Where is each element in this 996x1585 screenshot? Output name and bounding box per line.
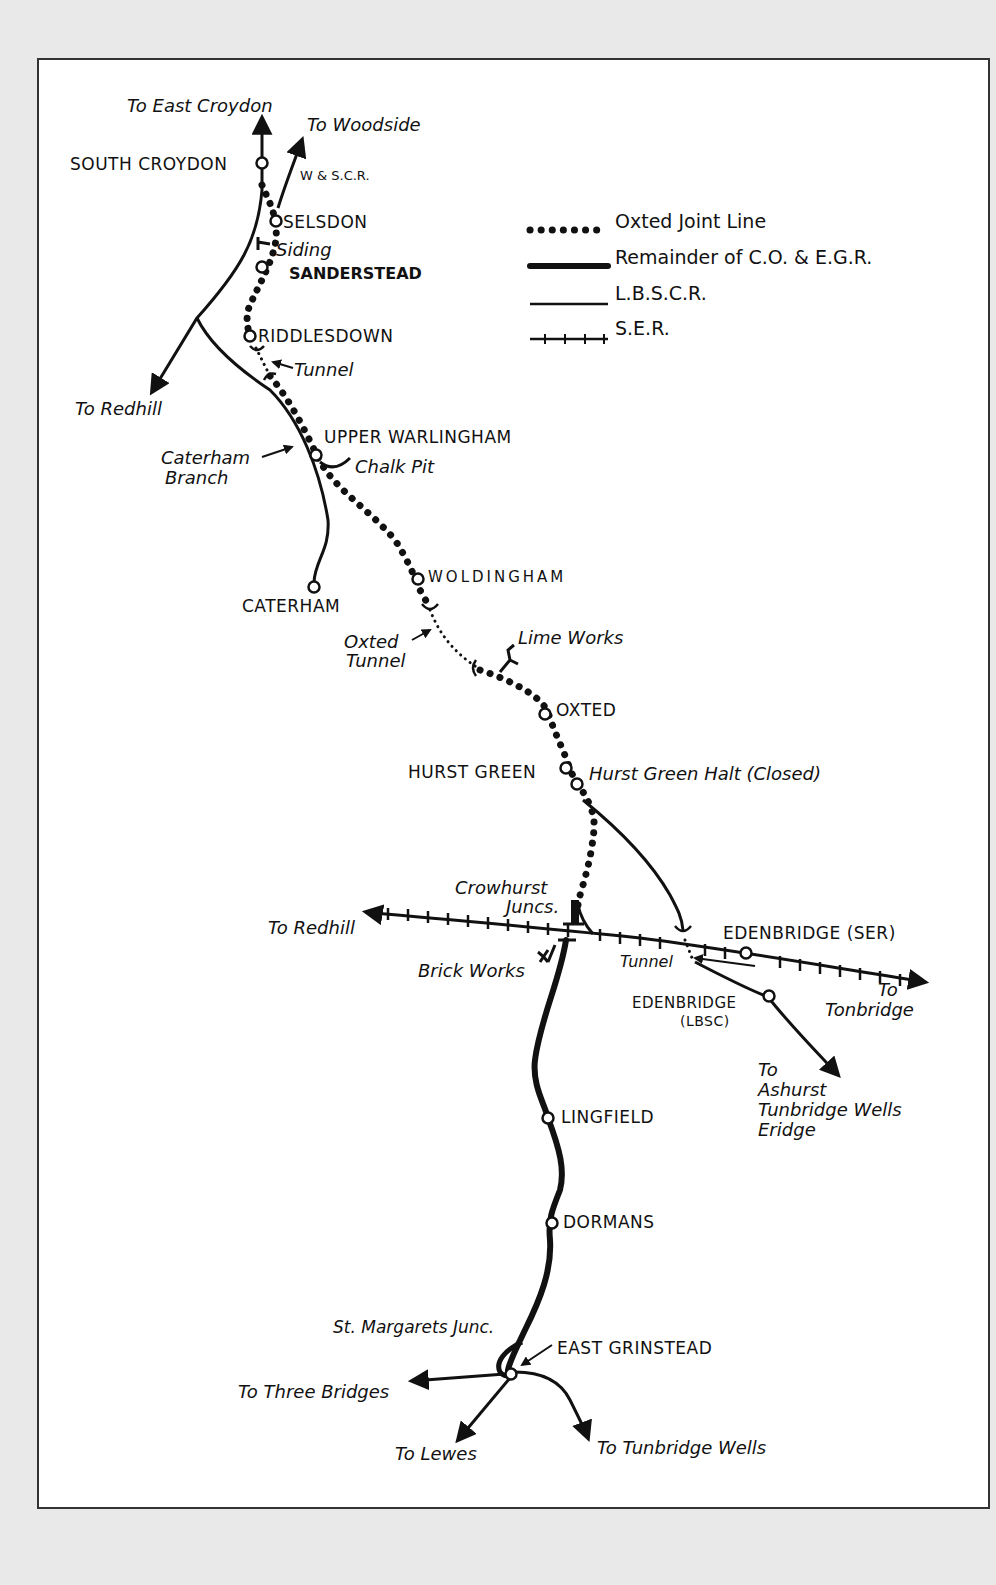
station-marker-east-grinstead[interactable] xyxy=(506,1369,517,1380)
crowhurst-junc-mark xyxy=(571,900,579,924)
label-selsdon: SELSDON xyxy=(283,212,367,232)
label-st-margarets: St. Margarets Junc. xyxy=(333,1317,494,1337)
station-marker-dormans[interactable] xyxy=(547,1218,558,1229)
label-to-woodside: To Woodside xyxy=(307,114,421,135)
label-oxted: OXTED xyxy=(556,700,616,720)
station-marker-edenbridge-lbsc[interactable] xyxy=(764,991,775,1002)
label-sanderstead: SANDERSTEAD xyxy=(289,264,422,283)
station-marker-upper-warlingham[interactable] xyxy=(311,450,322,461)
label-to-tunbridge-wells: To Tunbridge Wells xyxy=(597,1437,766,1458)
label-to-ashurst-1: To xyxy=(758,1059,778,1080)
legend-label-lbscr: L.B.S.C.R. xyxy=(615,282,707,304)
label-hurst-green-halt: Hurst Green Halt (Closed) xyxy=(589,763,821,784)
station-marker-south-croydon[interactable] xyxy=(257,158,268,169)
label-to-tonbridge-1: To xyxy=(878,979,898,1000)
label-to-redhill-north: To Redhill xyxy=(75,398,162,419)
map-frame xyxy=(38,59,989,1508)
label-caterham: CATERHAM xyxy=(242,596,340,616)
label-caterham-branch-1: Caterham xyxy=(161,447,250,468)
label-riddlesdown: RIDDLESDOWN xyxy=(258,326,394,346)
label-wscr: W & S.C.R. xyxy=(300,168,370,183)
label-east-grinstead: EAST GRINSTEAD xyxy=(557,1338,712,1358)
legend-label-ser: S.E.R. xyxy=(615,317,670,339)
station-marker-lingfield[interactable] xyxy=(543,1113,554,1124)
label-crowhurst-1: Crowhurst xyxy=(455,877,548,898)
label-hurst-green: HURST GREEN xyxy=(408,762,536,782)
label-chalk-pit: Chalk Pit xyxy=(355,456,435,477)
label-siding: Siding xyxy=(276,239,332,260)
label-to-lewes: To Lewes xyxy=(395,1443,477,1464)
label-edenbridge-lbsc-sub: (LBSC) xyxy=(680,1013,730,1029)
label-crowhurst-2: Juncs. xyxy=(503,896,559,917)
label-to-east-croydon: To East Croydon xyxy=(127,95,273,116)
legend-label-coegr: Remainder of C.O. & E.G.R. xyxy=(615,246,872,268)
station-marker-sanderstead[interactable] xyxy=(257,262,268,273)
legend-label-oxted-joint: Oxted Joint Line xyxy=(615,210,766,232)
station-marker-oxted[interactable] xyxy=(540,709,551,720)
label-upper-warlingham: UPPER WARLINGHAM xyxy=(324,427,512,447)
station-marker-selsdon[interactable] xyxy=(271,216,282,227)
label-to-three-bridges: To Three Bridges xyxy=(238,1381,389,1402)
station-marker-hurst-green[interactable] xyxy=(561,763,572,774)
label-lime-works: Lime Works xyxy=(518,627,623,648)
station-marker-caterham[interactable] xyxy=(309,582,320,593)
station-marker-riddlesdown[interactable] xyxy=(245,331,256,342)
station-marker-edenbridge-ser[interactable] xyxy=(741,948,752,959)
label-woldingham: WOLDINGHAM xyxy=(428,568,566,586)
label-oxted-tunnel-2: Tunnel xyxy=(346,650,405,671)
label-to-ashurst-3: Tunbridge Wells xyxy=(758,1099,902,1120)
label-to-redhill-west: To Redhill xyxy=(268,917,355,938)
label-lingfield: LINGFIELD xyxy=(561,1107,654,1127)
label-edenbridge-ser: EDENBRIDGE (SER) xyxy=(723,923,896,943)
label-to-ashurst-4: Eridge xyxy=(758,1119,816,1140)
railway-map: Oxted Joint Line Remainder of C.O. & E.G… xyxy=(0,0,996,1585)
label-dormans: DORMANS xyxy=(563,1212,655,1232)
station-marker-hurst-green-halt[interactable] xyxy=(572,779,583,790)
label-caterham-branch-2: Branch xyxy=(165,467,229,488)
label-edenbridge-lbsc: EDENBRIDGE xyxy=(632,994,737,1012)
label-to-tonbridge-2: Tonbridge xyxy=(825,999,914,1020)
label-brick-works: Brick Works xyxy=(418,960,525,981)
label-tunnel-edenbridge: Tunnel xyxy=(620,952,673,971)
label-to-ashurst-2: Ashurst xyxy=(757,1079,827,1100)
station-marker-woldingham[interactable] xyxy=(413,574,424,585)
label-tunnel-riddlesdown: Tunnel xyxy=(294,359,353,380)
label-oxted-tunnel-1: Oxted xyxy=(344,631,399,652)
label-south-croydon: SOUTH CROYDON xyxy=(70,154,227,174)
